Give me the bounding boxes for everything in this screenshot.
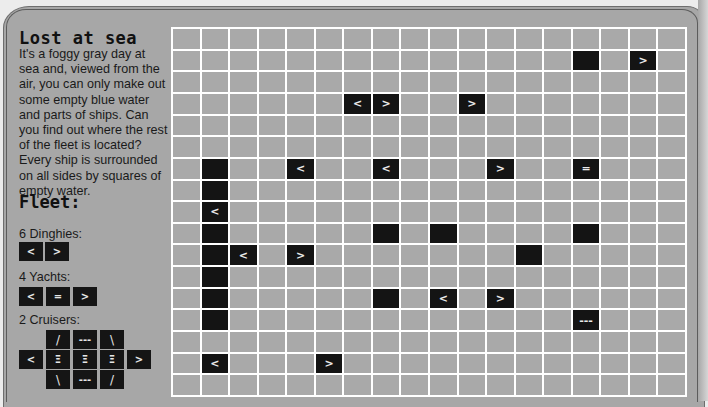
water-cell[interactable] [287, 72, 314, 92]
water-cell[interactable] [373, 51, 400, 71]
water-cell[interactable] [658, 137, 685, 157]
water-cell[interactable] [544, 332, 571, 352]
water-cell[interactable] [573, 289, 600, 309]
water-cell[interactable] [287, 310, 314, 330]
water-cell[interactable] [230, 137, 257, 157]
water-cell[interactable] [259, 310, 286, 330]
water-cell[interactable] [287, 51, 314, 71]
water-cell[interactable] [658, 224, 685, 244]
water-cell[interactable] [173, 159, 200, 179]
ship-cell[interactable]: > [630, 51, 657, 71]
water-cell[interactable] [459, 375, 486, 395]
water-cell[interactable] [230, 159, 257, 179]
water-cell[interactable] [459, 51, 486, 71]
water-cell[interactable] [259, 289, 286, 309]
water-cell[interactable] [630, 289, 657, 309]
water-cell[interactable] [630, 267, 657, 287]
water-cell[interactable] [630, 116, 657, 136]
water-cell[interactable] [259, 354, 286, 374]
ship-cell[interactable] [202, 181, 229, 201]
water-cell[interactable] [487, 245, 514, 265]
water-cell[interactable] [601, 51, 628, 71]
water-cell[interactable] [516, 159, 543, 179]
water-cell[interactable] [630, 181, 657, 201]
water-cell[interactable] [573, 72, 600, 92]
water-cell[interactable] [173, 354, 200, 374]
water-cell[interactable] [316, 375, 343, 395]
ship-cell[interactable] [573, 51, 600, 71]
water-cell[interactable] [287, 332, 314, 352]
water-cell[interactable] [658, 354, 685, 374]
water-cell[interactable] [287, 375, 314, 395]
water-cell[interactable] [544, 289, 571, 309]
water-cell[interactable] [373, 354, 400, 374]
water-cell[interactable] [430, 332, 457, 352]
water-cell[interactable] [487, 267, 514, 287]
water-cell[interactable] [401, 267, 428, 287]
water-cell[interactable] [287, 289, 314, 309]
water-cell[interactable] [230, 332, 257, 352]
water-cell[interactable] [344, 116, 371, 136]
water-cell[interactable] [658, 245, 685, 265]
water-cell[interactable] [401, 116, 428, 136]
water-cell[interactable] [316, 51, 343, 71]
ship-cell[interactable]: > [373, 94, 400, 114]
ship-cell[interactable]: --- [573, 310, 600, 330]
water-cell[interactable] [202, 137, 229, 157]
water-cell[interactable] [630, 202, 657, 222]
water-cell[interactable] [430, 245, 457, 265]
water-cell[interactable] [373, 29, 400, 49]
water-cell[interactable] [173, 181, 200, 201]
water-cell[interactable] [516, 310, 543, 330]
water-cell[interactable] [316, 332, 343, 352]
water-cell[interactable] [601, 289, 628, 309]
water-cell[interactable] [601, 245, 628, 265]
water-cell[interactable] [516, 29, 543, 49]
water-cell[interactable] [344, 159, 371, 179]
water-cell[interactable] [259, 245, 286, 265]
water-cell[interactable] [601, 159, 628, 179]
water-cell[interactable] [173, 267, 200, 287]
water-cell[interactable] [344, 267, 371, 287]
water-cell[interactable] [487, 354, 514, 374]
water-cell[interactable] [316, 116, 343, 136]
water-cell[interactable] [487, 310, 514, 330]
water-cell[interactable] [430, 181, 457, 201]
water-cell[interactable] [344, 224, 371, 244]
water-cell[interactable] [544, 116, 571, 136]
water-cell[interactable] [487, 72, 514, 92]
water-cell[interactable] [658, 51, 685, 71]
water-cell[interactable] [430, 159, 457, 179]
water-cell[interactable] [344, 137, 371, 157]
water-cell[interactable] [544, 181, 571, 201]
water-cell[interactable] [630, 354, 657, 374]
ship-cell[interactable]: < [230, 245, 257, 265]
water-cell[interactable] [430, 51, 457, 71]
water-cell[interactable] [430, 72, 457, 92]
water-cell[interactable] [601, 267, 628, 287]
water-cell[interactable] [316, 202, 343, 222]
water-cell[interactable] [173, 310, 200, 330]
water-cell[interactable] [630, 332, 657, 352]
water-cell[interactable] [401, 245, 428, 265]
water-cell[interactable] [373, 202, 400, 222]
water-cell[interactable] [544, 72, 571, 92]
water-cell[interactable] [658, 181, 685, 201]
water-cell[interactable] [487, 51, 514, 71]
water-cell[interactable] [259, 332, 286, 352]
water-cell[interactable] [573, 202, 600, 222]
water-cell[interactable] [287, 354, 314, 374]
ship-cell[interactable]: > [287, 245, 314, 265]
water-cell[interactable] [173, 202, 200, 222]
water-cell[interactable] [516, 289, 543, 309]
water-cell[interactable] [459, 137, 486, 157]
water-cell[interactable] [630, 94, 657, 114]
ship-cell[interactable] [430, 224, 457, 244]
water-cell[interactable] [516, 94, 543, 114]
water-cell[interactable] [573, 181, 600, 201]
water-cell[interactable] [202, 51, 229, 71]
ship-cell[interactable] [202, 267, 229, 287]
water-cell[interactable] [430, 354, 457, 374]
water-cell[interactable] [316, 289, 343, 309]
water-cell[interactable] [516, 354, 543, 374]
